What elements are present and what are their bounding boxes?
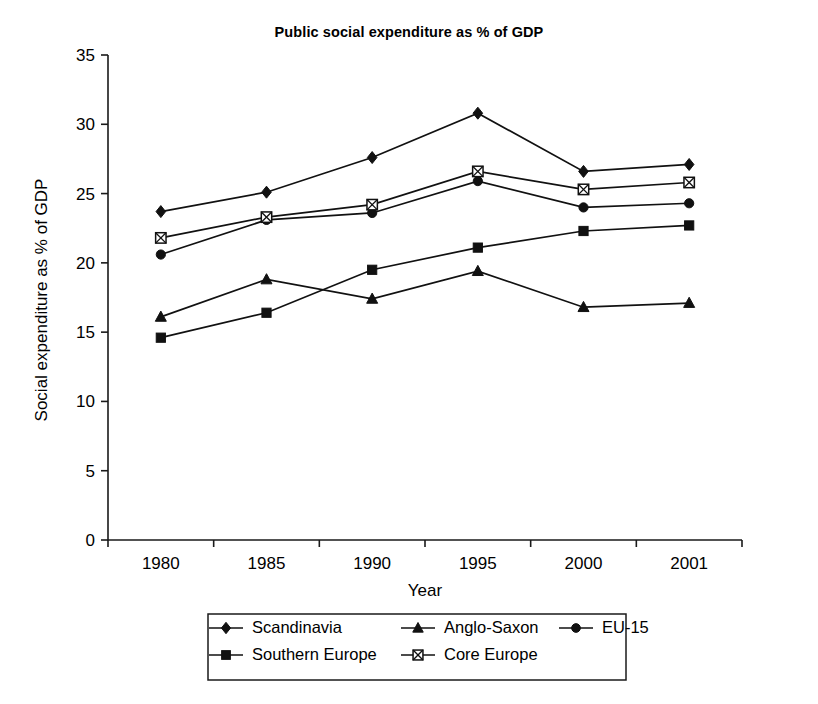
legend-label: Core Europe (444, 645, 538, 663)
data-point-marker (473, 177, 482, 186)
data-point-marker (413, 650, 423, 660)
data-point-marker (262, 186, 272, 198)
data-point-marker (156, 206, 166, 218)
data-point-marker (685, 199, 694, 208)
series-southern-europe (156, 221, 694, 342)
data-point-marker (367, 199, 377, 209)
data-point-marker (261, 212, 271, 222)
x-tick-label: 2001 (670, 554, 708, 573)
data-point-marker (684, 297, 695, 307)
data-point-marker (367, 152, 377, 164)
y-tick-label: 5 (86, 462, 95, 481)
y-tick-label: 25 (76, 185, 95, 204)
data-point-marker (572, 624, 581, 633)
y-axis-title: Social expenditure as % of GDP (32, 179, 51, 422)
data-point-marker (685, 221, 694, 230)
y-axis-ticks: 05101520253035 (76, 46, 108, 550)
data-point-marker (262, 308, 271, 317)
data-point-marker (473, 166, 483, 176)
x-axis-ticks: 198019851990199520002001 (108, 540, 742, 573)
y-tick-label: 10 (76, 392, 95, 411)
x-tick-label: 1990 (353, 554, 391, 573)
data-point-marker (579, 226, 588, 235)
chart-container: Public social expenditure as % of GDP So… (0, 0, 818, 704)
data-point-marker (222, 651, 231, 660)
data-point-marker (472, 265, 483, 275)
data-point-marker (578, 184, 588, 194)
data-series-layer (155, 107, 694, 342)
legend-label: Anglo-Saxon (444, 618, 538, 636)
data-point-marker (579, 165, 589, 177)
x-axis-title: Year (408, 581, 443, 600)
data-point-marker (473, 107, 483, 119)
axis-lines (108, 55, 742, 540)
legend-label: Scandinavia (252, 618, 343, 636)
x-tick-label: 1980 (142, 554, 180, 573)
data-point-marker (684, 158, 694, 170)
data-point-marker (684, 177, 694, 187)
x-tick-label: 2000 (565, 554, 603, 573)
chart-canvas: Social expenditure as % of GDP 051015202… (0, 0, 818, 704)
data-point-marker (579, 203, 588, 212)
series-scandinavia (156, 107, 694, 217)
data-point-marker (261, 274, 272, 284)
x-tick-label: 1985 (248, 554, 286, 573)
y-tick-label: 20 (76, 254, 95, 273)
y-tick-label: 35 (76, 46, 95, 65)
y-tick-label: 30 (76, 115, 95, 134)
x-tick-label: 1995 (459, 554, 497, 573)
series-core-europe (156, 166, 695, 243)
data-point-marker (368, 265, 377, 274)
data-point-marker (156, 250, 165, 259)
legend-label: Southern Europe (252, 645, 377, 663)
legend-label: EU-15 (602, 618, 649, 636)
series-anglo-saxon (155, 265, 694, 321)
data-point-marker (156, 233, 166, 243)
y-tick-label: 0 (86, 531, 95, 550)
data-point-marker (156, 333, 165, 342)
data-point-marker (473, 243, 482, 252)
y-tick-label: 15 (76, 323, 95, 342)
